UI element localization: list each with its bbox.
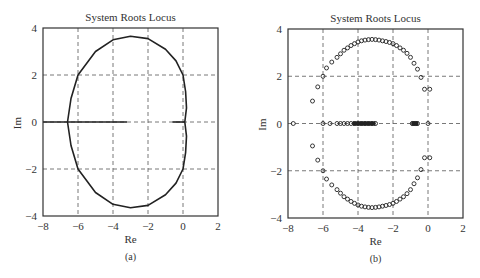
x-tick-label: 0 — [180, 220, 186, 232]
root-marker — [330, 183, 334, 187]
locus-curve — [68, 36, 187, 122]
x-axis-label: Re — [124, 233, 136, 245]
y-tick-label: −4 — [25, 210, 37, 222]
figure: −8−6−4−202−4−2024System Roots LocusReIm(… — [0, 0, 480, 278]
subfigure-label: (b) — [370, 253, 382, 265]
root-marker — [339, 52, 343, 56]
root-marker — [339, 191, 343, 195]
x-tick-label: −4 — [107, 220, 119, 232]
subfigure-label: (a) — [125, 251, 136, 263]
x-tick-label: −6 — [317, 222, 329, 234]
root-marker — [428, 87, 432, 91]
y-axis-label: Im — [256, 118, 268, 131]
y-tick-label: −2 — [270, 165, 282, 177]
x-tick-label: −6 — [72, 220, 84, 232]
panel-b: −8−6−4−202−4−2024System Roots LocusReIm(… — [256, 12, 466, 265]
chart-title: System Roots Locus — [85, 11, 175, 23]
root-marker — [316, 158, 320, 162]
root-marker — [412, 61, 416, 65]
root-marker — [330, 60, 334, 64]
root-cluster — [353, 121, 376, 125]
root-marker — [402, 48, 406, 52]
x-tick-label: 2 — [460, 222, 466, 234]
y-tick-label: 0 — [32, 116, 38, 128]
root-marker — [423, 87, 427, 91]
root-cluster — [411, 121, 418, 125]
x-tick-label: 0 — [425, 222, 431, 234]
root-marker — [335, 55, 339, 59]
y-tick-label: 4 — [277, 23, 283, 35]
x-tick-label: −8 — [37, 220, 49, 232]
y-tick-label: 0 — [277, 118, 283, 130]
x-tick-label: −2 — [142, 220, 154, 232]
root-marker — [416, 176, 420, 180]
y-tick-label: −2 — [25, 163, 37, 175]
root-marker — [316, 85, 320, 89]
y-tick-label: 4 — [32, 22, 38, 34]
root-marker — [405, 51, 409, 55]
x-tick-label: −4 — [352, 222, 364, 234]
y-tick-label: 2 — [277, 70, 283, 82]
x-tick-label: −8 — [282, 222, 294, 234]
root-marker — [335, 188, 339, 192]
root-marker — [402, 195, 406, 199]
root-marker — [311, 144, 315, 148]
root-marker — [325, 66, 329, 70]
root-marker — [311, 99, 315, 103]
figure-canvas: −8−6−4−202−4−2024System Roots LocusReIm(… — [0, 0, 480, 278]
root-marker — [412, 182, 416, 186]
root-marker — [405, 192, 409, 196]
panel-a: −8−6−4−202−4−2024System Roots LocusReIm(… — [11, 11, 221, 263]
x-tick-label: −2 — [387, 222, 399, 234]
root-marker — [325, 177, 329, 181]
x-tick-label: 2 — [215, 220, 221, 232]
chart-title: System Roots Locus — [330, 12, 420, 24]
root-marker — [409, 188, 413, 192]
y-axis-label: Im — [11, 116, 23, 129]
root-marker — [416, 67, 420, 71]
root-marker — [423, 156, 427, 160]
root-marker — [409, 55, 413, 59]
locus-curve — [68, 122, 187, 208]
y-tick-label: 2 — [32, 69, 38, 81]
x-axis-label: Re — [369, 235, 381, 247]
y-tick-label: −4 — [270, 212, 282, 224]
